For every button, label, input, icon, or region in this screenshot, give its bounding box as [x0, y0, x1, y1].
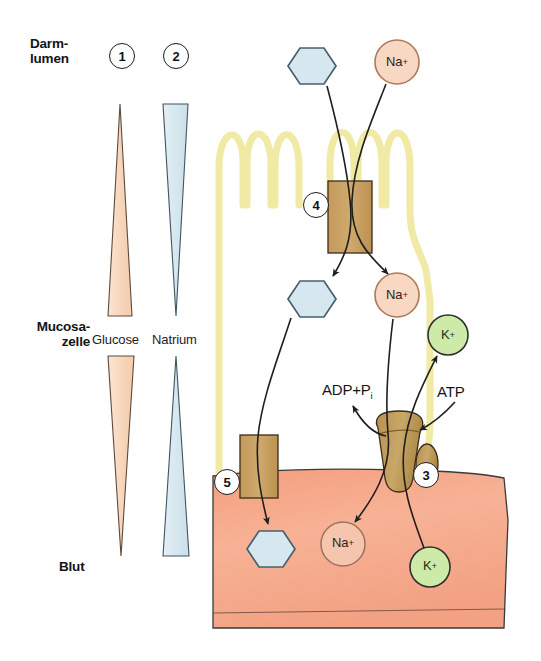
marker-5-label: 5: [223, 475, 230, 490]
marker-4[interactable]: 4: [303, 192, 329, 218]
sodium-circle-blood: [321, 522, 365, 566]
sodium-circle-cell: [375, 273, 419, 317]
gradient-label-glucose: Glucose: [92, 333, 139, 348]
potassium-circle-cell: [428, 315, 468, 355]
gradient-label-natrium: Natrium: [152, 333, 197, 348]
adp-subscript: i: [371, 390, 373, 401]
marker-5[interactable]: 5: [214, 469, 240, 495]
gradient-triangle-natrium-upper: [163, 104, 188, 316]
compartment-label-lumen: Darm- lumen: [30, 36, 69, 66]
compartment-label-blood: Blut: [59, 559, 84, 574]
adp-label: ADP+Pi: [322, 382, 373, 402]
glucose-hexagon-cell: [288, 281, 336, 317]
gradient-triangle-glucose-upper: [108, 104, 132, 316]
marker-2[interactable]: 2: [163, 43, 189, 69]
path-atp-in: [420, 402, 455, 430]
marker-2-label: 2: [172, 49, 179, 64]
compartment-label-mucosa: Mucosa- zelle: [24, 319, 90, 349]
glucose-hexagon-lumen: [288, 48, 336, 84]
symporter-4[interactable]: [328, 181, 372, 253]
gradient-triangle-glucose-lower: [108, 356, 134, 556]
potassium-circle-blood: [410, 547, 450, 587]
sodium-circle-lumen: [375, 40, 419, 84]
diagram-canvas: Darm- lumen Mucosa- zelle Blut Glucose N…: [0, 0, 541, 661]
marker-3-label: 3: [422, 468, 429, 483]
marker-1-label: 1: [118, 49, 125, 64]
adp-text: ADP+P: [322, 381, 371, 398]
marker-3[interactable]: 3: [413, 462, 439, 488]
marker-1[interactable]: 1: [109, 43, 135, 69]
glut-transporter-5[interactable]: [240, 435, 278, 498]
marker-4-label: 4: [312, 198, 319, 213]
gradient-triangle-natrium-lower: [163, 356, 189, 556]
atp-label: ATP: [437, 384, 464, 401]
